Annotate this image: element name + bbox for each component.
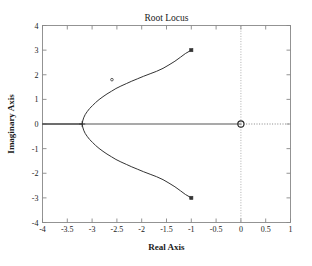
y-axis-title: Imaginary Axis (6, 94, 16, 154)
y-tick-label-3: -1 (32, 145, 39, 154)
x-tick-label-5: -1.5 (160, 225, 173, 234)
x-tick-label-3: -2.5 (111, 225, 124, 234)
x-axis-title: Real Axis (148, 242, 185, 252)
x-tick-label-8: 0 (239, 225, 243, 234)
branch-gain-point-upper (111, 78, 114, 81)
y-tick-label-8: 4 (35, 22, 39, 31)
y-tick-label-4: 0 (35, 120, 39, 129)
x-tick-label-7: -0.5 (210, 225, 223, 234)
y-tick-label-1: -3 (32, 194, 39, 203)
root-locus-upper-branch (82, 50, 191, 124)
root-locus-figure: -4-3.5-3-2.5-2-1.5-1-0.500.51-4-3-2-1012… (0, 0, 312, 266)
x-tick-label-6: -1 (188, 225, 195, 234)
x-tick-label-0: -4 (39, 225, 46, 234)
x-tick-label-9: 0.5 (261, 225, 271, 234)
root-locus-lower-branch (82, 124, 191, 198)
y-tick-label-0: -4 (32, 219, 39, 228)
chart-title: Root Locus (144, 13, 188, 23)
y-tick-label-7: 3 (35, 46, 39, 55)
x-tick-label-2: -3 (89, 225, 96, 234)
x-tick-label-4: -2 (138, 225, 145, 234)
y-tick-label-6: 2 (35, 71, 39, 80)
branch-endpoint-upper (190, 49, 193, 52)
root-locus-chart: -4-3.5-3-2.5-2-1.5-1-0.500.51-4-3-2-1012… (0, 0, 312, 266)
x-tick-label-10: 1 (289, 225, 293, 234)
y-tick-label-5: 1 (35, 95, 39, 104)
x-tick-label-1: -3.5 (61, 225, 74, 234)
y-tick-label-2: -2 (32, 169, 39, 178)
branch-endpoint-lower (190, 196, 193, 199)
